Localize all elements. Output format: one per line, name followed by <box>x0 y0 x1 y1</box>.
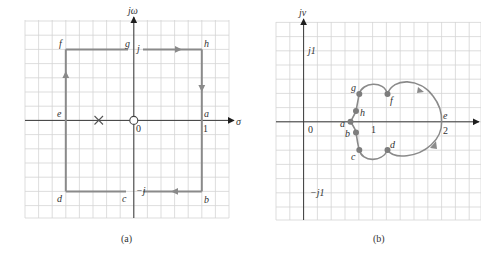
tick-j1: j1 <box>306 45 316 56</box>
tick-origin-a: 0 <box>136 123 141 134</box>
point-h-dot <box>353 108 359 114</box>
axis-label-jv: jv <box>297 7 307 18</box>
point-label-b: b <box>204 194 209 205</box>
point-a-dot <box>348 119 354 125</box>
arrow-up-icon <box>62 71 69 78</box>
panel-a: jω σ 0 1 j −j a b c d e f g h (a) <box>25 5 242 245</box>
point-label-h-b: h <box>360 107 365 118</box>
point-label-g-b: g <box>351 82 356 93</box>
point-label-g: g <box>125 38 130 49</box>
point-label-e-b: e <box>443 110 448 121</box>
tick-one-b: 1 <box>371 124 376 135</box>
arrow-down-icon <box>198 85 205 92</box>
point-label-d-b: d <box>390 139 396 150</box>
tick-j-a: j <box>135 43 140 54</box>
arrow-right-icon <box>175 46 182 53</box>
point-g-dot <box>356 91 362 97</box>
tick-minus-j1: −j1 <box>310 187 325 198</box>
figure-canvas: jω σ 0 1 j −j a b c d e f g h (a) <box>0 0 481 255</box>
tick-two-b: 2 <box>443 125 448 136</box>
tick-minus-j-a: −j <box>136 185 146 196</box>
panel-b: jv 0 1 2 j1 −j1 a b c d e f g h (b) <box>276 7 481 245</box>
point-label-c-b: c <box>351 151 356 162</box>
point-label-a: a <box>204 108 209 119</box>
caption-a: (a) <box>121 233 132 245</box>
point-label-e: e <box>57 108 62 119</box>
point-label-f: f <box>59 38 63 49</box>
tick-origin-b: 0 <box>308 124 313 135</box>
arrow-curve-upper-icon <box>417 87 424 93</box>
point-c-dot <box>356 147 362 153</box>
tick-one-a: 1 <box>203 123 208 134</box>
point-label-b-b: b <box>345 128 350 139</box>
caption-b: (b) <box>373 233 385 245</box>
point-b-dot <box>353 130 359 136</box>
grid-b <box>276 22 481 220</box>
axis-label-jomega: jω <box>126 5 138 16</box>
axis-label-sigma: σ <box>236 116 242 127</box>
point-label-f-b: f <box>390 95 394 106</box>
point-label-c: c <box>122 193 127 204</box>
point-label-h: h <box>204 38 209 49</box>
point-label-d: d <box>57 193 63 204</box>
